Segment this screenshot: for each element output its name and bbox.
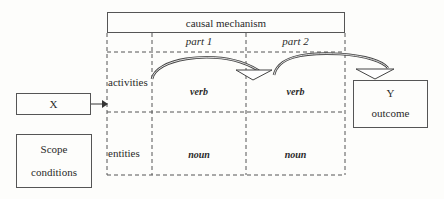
causal-mechanism-title: causal mechanism (186, 17, 266, 29)
cell-entity-part2: noun (246, 147, 345, 161)
curved-arrow-part1 (152, 57, 272, 80)
x-arrow (91, 100, 108, 108)
column-header-part1: part 1 (152, 34, 246, 48)
outcome-y-label: Y (354, 87, 427, 99)
row-label-entities: entities (108, 147, 140, 159)
cell-entity-part1: noun (152, 147, 246, 161)
row-label-activities: activities (108, 76, 148, 88)
cell-activity-part2: verb (246, 84, 345, 98)
column-header-part2: part 2 (246, 34, 345, 48)
outcome-y-box: Y outcome (353, 80, 428, 128)
scope-line2: conditions (17, 166, 91, 178)
cause-x-label: X (50, 98, 58, 110)
cell-activity-part1: verb (152, 84, 246, 98)
outcome-label: outcome (354, 107, 427, 119)
cause-x-box: X (16, 93, 91, 115)
curved-arrow-part2 (274, 54, 394, 79)
causal-mechanism-header: causal mechanism (107, 12, 345, 33)
scope-line1: Scope (17, 143, 91, 155)
scope-conditions-box: Scope conditions (16, 134, 92, 188)
